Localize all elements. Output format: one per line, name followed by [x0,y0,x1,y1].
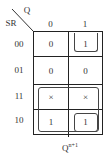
cell-00-0: 0 [34,32,68,56]
output-label-sup: n+1 [69,142,78,148]
output-label: Qn+1 [55,141,85,153]
grid-line [102,31,103,135]
col-label-0: 0 [33,20,68,29]
col-var-label: Q [22,6,32,15]
cell-01-0: 0 [34,57,68,84]
group-loop-00-1 [74,33,98,52]
col-label-1: 1 [68,20,102,29]
cell-01-1: 0 [69,57,102,84]
row-label-00: 00 [8,40,30,49]
row-var-label: SR [3,19,19,28]
row-label-01: 01 [8,66,30,75]
row-label-11: 11 [8,92,30,101]
row-label-10: 10 [8,116,30,125]
group-loop-10-1 [74,113,98,132]
